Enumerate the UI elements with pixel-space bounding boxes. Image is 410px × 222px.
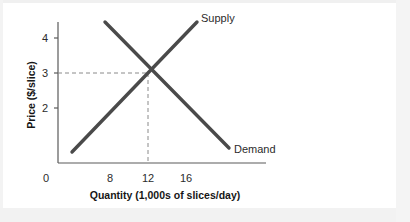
figure-card: 4 3 2 0 8 12 16 Supply Demand Price ($/s…	[0, 0, 410, 222]
curves-group	[72, 22, 229, 152]
y-tick-label-4: 4	[42, 32, 48, 44]
x-tick-label-8: 8	[107, 172, 113, 184]
y-tick-label-2: 2	[42, 102, 48, 114]
curve-labels: Supply Demand	[201, 12, 276, 155]
y-tick-label-3: 3	[42, 67, 48, 79]
x-tick-labels: 0 8 12 16	[43, 172, 192, 184]
x-axis-title: Quantity (1,000s of slices/day)	[90, 189, 241, 201]
demand-curve	[105, 22, 229, 148]
axes-group	[58, 22, 266, 163]
x-tick-label-0: 0	[43, 172, 49, 184]
supply-label: Supply	[201, 12, 235, 24]
demand-label: Demand	[234, 143, 276, 155]
y-axis-title: Price ($/slice)	[25, 61, 37, 129]
supply-curve	[72, 22, 197, 152]
supply-demand-chart: 4 3 2 0 8 12 16 Supply Demand Price ($/s…	[0, 0, 410, 222]
y-tick-labels: 4 3 2	[42, 32, 48, 114]
x-tick-label-16: 16	[180, 172, 192, 184]
x-tick-label-12: 12	[142, 172, 154, 184]
